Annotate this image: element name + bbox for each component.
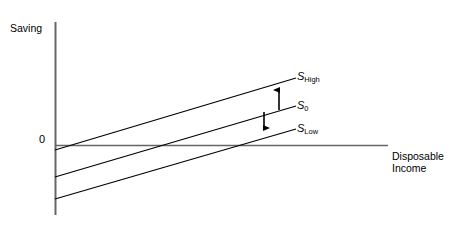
origin-label: 0 — [39, 133, 45, 145]
x-axis-label: DisposableIncome — [392, 150, 444, 174]
y-axis-label: Saving — [10, 22, 42, 34]
curve-subscript-s-zero: 0 — [304, 104, 308, 113]
curve-s-zero — [55, 106, 296, 177]
curve-label-s-zero: S0 — [297, 99, 309, 111]
x-axis-label-line1: Disposable — [392, 150, 444, 162]
curve-label-s-low: SLow — [297, 122, 318, 134]
plot-area — [0, 0, 453, 227]
curve-subscript-s-low: Low — [304, 127, 318, 136]
x-axis-label-line2: Income — [392, 162, 426, 174]
curve-label-s-high: SHigh — [297, 70, 320, 82]
curve-subscript-s-high: High — [304, 75, 319, 84]
saving-function-shift-diagram: Saving 0 DisposableIncome SHigh S0 SLow — [0, 0, 453, 227]
